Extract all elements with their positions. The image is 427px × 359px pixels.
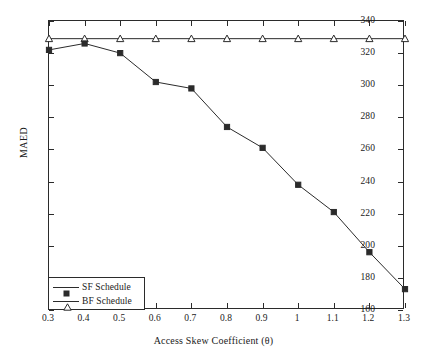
series-bf-schedule	[45, 35, 408, 42]
y-tick-label: 240	[360, 176, 375, 186]
data-point-filled-square-icon	[367, 250, 372, 255]
y-tick-label: 320	[360, 47, 375, 57]
data-point-filled-square-icon	[296, 182, 301, 187]
x-tick-mark	[298, 21, 299, 26]
x-tick-label: 0.3	[28, 313, 68, 323]
x-tick-label: 0.8	[206, 313, 246, 323]
y-tick-mark	[49, 117, 54, 118]
x-tick-mark	[120, 21, 121, 26]
plot-area	[48, 20, 404, 309]
y-tick-label: 300	[360, 79, 375, 89]
y-tick-mark	[398, 246, 403, 247]
y-tick-mark	[398, 214, 403, 215]
chart-figure: MAED 3403203002802602402202001801600.30.…	[0, 0, 427, 359]
x-tick-mark	[298, 303, 299, 308]
x-tick-label: 1	[277, 313, 317, 323]
data-point-filled-square-icon	[260, 145, 265, 150]
x-tick-mark	[334, 303, 335, 308]
legend-marker-open-triangle-icon	[52, 295, 80, 307]
series-line	[49, 43, 405, 289]
x-tick-mark	[156, 303, 157, 308]
x-tick-mark	[227, 303, 228, 308]
legend-box: SF Schedule BF Schedule	[48, 277, 145, 310]
y-tick-mark	[49, 53, 54, 54]
data-point-filled-square-icon	[331, 209, 336, 214]
x-tick-label: 1.2	[348, 313, 388, 323]
x-tick-label: 0.9	[242, 313, 282, 323]
data-point-filled-square-icon	[402, 287, 407, 292]
y-tick-label: 280	[360, 111, 375, 121]
y-axis-title-text: MAED	[18, 144, 29, 158]
x-tick-label: 0.5	[99, 313, 139, 323]
data-point-filled-square-icon	[189, 86, 194, 91]
y-tick-mark	[398, 53, 403, 54]
y-tick-label: 340	[360, 15, 375, 25]
x-axis-title: Access Skew Coefficient (θ)	[0, 335, 427, 346]
y-axis-title: MAED	[4, 118, 15, 132]
legend-item-bf-schedule[interactable]: BF Schedule	[49, 294, 144, 308]
legend-label-sf-schedule: SF Schedule	[80, 282, 131, 293]
x-tick-label: 1.1	[313, 313, 353, 323]
x-tick-label: 1.3	[384, 313, 424, 323]
y-tick-label: 220	[360, 208, 375, 218]
y-tick-mark	[49, 246, 54, 247]
x-tick-mark	[405, 303, 406, 308]
series-sf-schedule	[46, 41, 407, 292]
x-tick-mark	[49, 21, 50, 26]
y-tick-mark	[398, 310, 403, 311]
x-tick-mark	[191, 303, 192, 308]
legend-label-bf-schedule: BF Schedule	[80, 296, 132, 307]
y-tick-mark	[398, 278, 403, 279]
x-tick-mark	[227, 21, 228, 26]
x-tick-mark	[263, 21, 264, 26]
x-tick-label: 0.6	[135, 313, 175, 323]
y-tick-mark	[49, 310, 54, 311]
x-tick-mark	[334, 21, 335, 26]
x-tick-mark	[191, 21, 192, 26]
x-tick-mark	[263, 303, 264, 308]
x-tick-label: 0.7	[170, 313, 210, 323]
y-tick-mark	[49, 149, 54, 150]
data-point-filled-square-icon	[118, 51, 123, 56]
y-tick-mark	[398, 149, 403, 150]
legend-item-sf-schedule[interactable]: SF Schedule	[49, 280, 144, 294]
y-tick-mark	[398, 182, 403, 183]
x-tick-mark	[85, 21, 86, 26]
y-tick-label: 200	[360, 240, 375, 250]
x-tick-mark	[405, 21, 406, 26]
legend-marker-filled-square-icon	[52, 281, 80, 293]
y-tick-label: 260	[360, 143, 375, 153]
data-point-filled-square-icon	[224, 124, 229, 129]
x-tick-mark	[156, 21, 157, 26]
y-tick-mark	[49, 85, 54, 86]
y-tick-mark	[49, 182, 54, 183]
y-tick-mark	[398, 85, 403, 86]
y-tick-mark	[398, 117, 403, 118]
y-tick-mark	[49, 214, 54, 215]
y-tick-mark	[398, 21, 403, 22]
data-point-filled-square-icon	[82, 41, 87, 46]
y-tick-label: 180	[360, 272, 375, 282]
plot-canvas	[49, 21, 405, 310]
data-point-filled-square-icon	[46, 47, 51, 52]
data-point-filled-square-icon	[153, 79, 158, 84]
